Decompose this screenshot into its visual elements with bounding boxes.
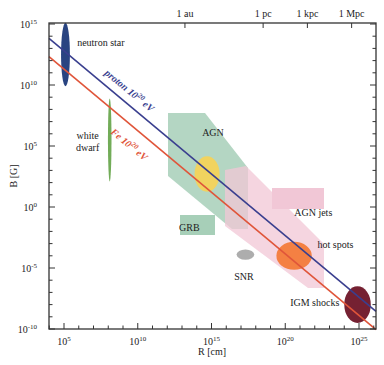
hot-spots-label: hot spots — [317, 239, 353, 250]
hillas-plot: proton 1020 eVFe 1020 eV 105101010151020… — [0, 0, 384, 365]
y-axis-title: B [G] — [8, 164, 19, 187]
proton-line — [49, 38, 376, 311]
white-dwarf-label: whitedwarf — [76, 130, 100, 153]
fe-line — [49, 57, 376, 330]
SNR-label: SNR — [234, 271, 254, 282]
y-tick-label: 10-5 — [21, 262, 37, 274]
x-tick-label: 105 — [57, 335, 71, 347]
x-axis-title: R [cm] — [198, 346, 226, 357]
object-ellipses — [61, 23, 371, 323]
SNR-ellipse — [237, 249, 255, 259]
white-dwarf-ellipse — [108, 98, 112, 181]
top-tick-label: 1 au — [176, 8, 193, 19]
y-tick-label: 10-10 — [18, 323, 38, 335]
hot-spots-ellipse — [276, 242, 311, 270]
top-tick-label: 1 Mpc — [339, 8, 365, 19]
top-tick-label: 1 pc — [255, 8, 273, 19]
x-tick-label: 1025 — [351, 335, 369, 347]
y-tick-label: 100 — [24, 201, 38, 213]
fe-line-label: Fe 1020 eV — [108, 125, 152, 164]
y-tick-label: 105 — [24, 140, 38, 152]
y-tick-label: 1015 — [20, 18, 38, 30]
AGN-jets-label: AGN jets — [294, 207, 332, 218]
GRB-label: GRB — [179, 222, 200, 233]
AGN-ellipse — [195, 156, 220, 191]
x-tick-label: 1020 — [277, 335, 295, 347]
AGN-label: AGN — [202, 127, 224, 138]
y-tick-label: 1010 — [20, 79, 38, 91]
top-tick-label: 1 kpc — [296, 8, 319, 19]
IGM-shocks-label: IGM shocks — [290, 297, 339, 308]
neutron-star-label: neutron star — [77, 37, 125, 48]
x-tick-label: 1010 — [129, 335, 147, 347]
